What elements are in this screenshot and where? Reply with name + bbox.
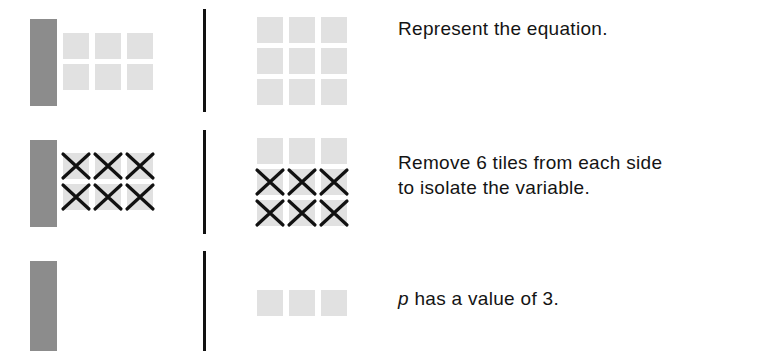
equals-divider bbox=[203, 251, 206, 351]
step-caption-line-1: Remove 6 tiles from each side bbox=[398, 150, 662, 175]
x-mark-icon bbox=[286, 167, 318, 197]
unit-tile bbox=[95, 33, 121, 59]
equals-divider bbox=[203, 130, 206, 234]
unit-tile bbox=[63, 64, 89, 90]
variable-tile bbox=[30, 140, 57, 227]
unit-tile bbox=[289, 17, 315, 43]
x-mark-icon bbox=[318, 167, 350, 197]
unit-tile bbox=[289, 290, 315, 316]
unit-tile bbox=[321, 48, 347, 74]
unit-tile bbox=[95, 64, 121, 90]
unit-tile bbox=[321, 138, 347, 164]
x-mark-icon bbox=[254, 198, 286, 228]
unit-tile bbox=[289, 138, 315, 164]
variable-p: p bbox=[398, 288, 409, 309]
unit-tile bbox=[257, 79, 283, 105]
x-mark-icon bbox=[254, 167, 286, 197]
unit-tile bbox=[321, 290, 347, 316]
unit-tile bbox=[289, 79, 315, 105]
unit-tile bbox=[127, 33, 153, 59]
equals-divider bbox=[203, 9, 206, 112]
caption-text: has a value of 3. bbox=[409, 288, 559, 309]
unit-tile bbox=[321, 79, 347, 105]
x-mark-icon bbox=[60, 182, 92, 212]
x-mark-icon bbox=[124, 151, 156, 181]
unit-tile bbox=[321, 17, 347, 43]
variable-tile bbox=[30, 261, 57, 351]
unit-tile bbox=[257, 290, 283, 316]
variable-tile bbox=[30, 19, 57, 106]
x-mark-icon bbox=[92, 151, 124, 181]
x-mark-icon bbox=[318, 198, 350, 228]
x-mark-icon bbox=[92, 182, 124, 212]
step-caption: p has a value of 3. bbox=[398, 286, 559, 311]
x-mark-icon bbox=[60, 151, 92, 181]
unit-tile bbox=[257, 138, 283, 164]
step-caption: Represent the equation. bbox=[398, 16, 608, 41]
unit-tile bbox=[289, 48, 315, 74]
unit-tile bbox=[257, 17, 283, 43]
unit-tile bbox=[63, 33, 89, 59]
step-caption-line-2: to isolate the variable. bbox=[398, 175, 590, 200]
x-mark-icon bbox=[124, 182, 156, 212]
x-mark-icon bbox=[286, 198, 318, 228]
unit-tile bbox=[127, 64, 153, 90]
unit-tile bbox=[257, 48, 283, 74]
